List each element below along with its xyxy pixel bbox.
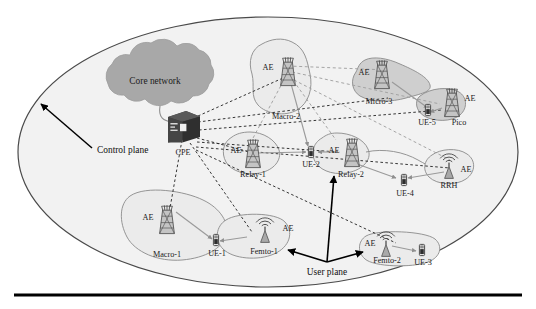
cpe-label: CPE	[175, 148, 190, 157]
ae-label-macro-1: AE	[143, 213, 154, 222]
cell-label-relay-1: Relay-1	[240, 170, 266, 179]
ue-label-4: UE-4	[396, 189, 414, 198]
cell-label-macro-2: Macro-2	[272, 112, 300, 121]
ue-label-5: UE-5	[418, 118, 436, 127]
core-network-label: Core network	[129, 76, 181, 86]
cell-label-pico: Pico	[452, 118, 467, 127]
cell-region-macro-2	[250, 39, 311, 114]
cell-label-femto-2: Femto-2	[373, 256, 401, 265]
control-plane-label: Control plane	[97, 145, 148, 155]
ae-label-femto-2: AE	[365, 239, 376, 248]
cell-label-rrh: RRH	[441, 181, 458, 190]
cell-label-micro-3: Micro-3	[366, 97, 393, 106]
cell-label-relay-2: Relay-2	[338, 170, 364, 179]
ue-label-3: UE-3	[414, 258, 432, 267]
figure-root: Core network	[0, 0, 536, 309]
user-plane-label: User plane	[307, 267, 347, 277]
ue-label-1: UE-1	[208, 249, 226, 258]
ae-label-relay-2: AE	[329, 146, 340, 155]
ae-label-pico: AE	[465, 94, 476, 103]
ae-label-micro-3: AE	[359, 68, 370, 77]
network-architecture-diagram: Core network	[0, 0, 536, 309]
cell-label-macro-1: Macro-1	[153, 250, 181, 259]
ae-label-relay-1: AE	[231, 146, 242, 155]
ue-label-2: UE-2	[302, 160, 320, 169]
ae-label-rrh: AE	[461, 165, 472, 174]
ae-label-macro-2: AE	[263, 63, 274, 72]
cell-label-femto-1: Femto-1	[250, 247, 278, 256]
ae-label-femto-1: AE	[283, 224, 294, 233]
